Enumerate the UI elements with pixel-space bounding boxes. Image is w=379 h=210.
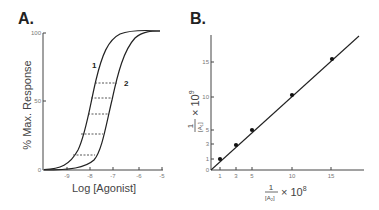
svg-text:[A1]: [A1] [197, 122, 204, 132]
x-tick-label: -6 [136, 173, 142, 179]
y-tick-label: 1 [206, 156, 210, 162]
y-tick-label: 50 [34, 98, 41, 104]
x-tick-label: 10 [289, 173, 296, 179]
x-tick-label: -7 [110, 173, 116, 179]
y-tick-label: 3 [206, 141, 210, 147]
svg-text:× 109: × 109 [188, 90, 201, 116]
curve-1-label: 1 [92, 61, 97, 70]
data-point [330, 57, 334, 61]
panel-a-y-title: % Max. Response [21, 60, 33, 149]
curve-2 [44, 31, 160, 170]
panel-b: B. 15 10 5 3 1 0 1 3 5 10 15 [186, 10, 364, 202]
curve-1 [44, 30, 160, 169]
x-tick-label: 15 [328, 173, 335, 179]
data-point [234, 143, 238, 147]
y-tick-label: 100 [31, 30, 42, 36]
equiactive-dashed-lines [73, 83, 117, 155]
y-tick-label: 0 [38, 167, 42, 173]
x-tick-label: -8 [87, 173, 93, 179]
y-tick-label: 10 [202, 94, 209, 100]
y-tick-label: 15 [202, 59, 209, 65]
x-tick-label: -5 [159, 173, 165, 179]
x-tick-label: 1 [218, 173, 222, 179]
panel-a: A. 100 50 0 -9 -8 -7 -6 -5 Log [Agonist]… [18, 10, 165, 194]
panel-a-x-title: Log [Agonist] [72, 182, 136, 194]
panel-b-x-title: 1 [A2] × 108 [265, 183, 307, 202]
figure: A. 100 50 0 -9 -8 -7 -6 -5 Log [Agonist]… [0, 0, 379, 210]
data-points [218, 57, 334, 161]
panel-a-label: A. [18, 10, 34, 27]
regression-line [211, 36, 359, 170]
svg-text:[A2]: [A2] [265, 195, 275, 202]
data-point [290, 93, 294, 97]
svg-text:× 108: × 108 [281, 185, 307, 198]
svg-text:1: 1 [269, 183, 274, 192]
data-point [218, 157, 222, 161]
x-tick-label: 3 [234, 173, 238, 179]
panel-b-label: B. [190, 10, 206, 27]
svg-text:1: 1 [186, 123, 195, 128]
x-tick-label: -9 [64, 173, 70, 179]
panel-b-y-title: 1 [A1] × 109 [186, 90, 204, 132]
curve-2-label: 2 [124, 79, 129, 88]
y-tick-label: 5 [206, 127, 210, 133]
x-tick-label: 5 [250, 173, 254, 179]
data-point [250, 128, 254, 132]
y-tick-label: 0 [206, 167, 210, 173]
